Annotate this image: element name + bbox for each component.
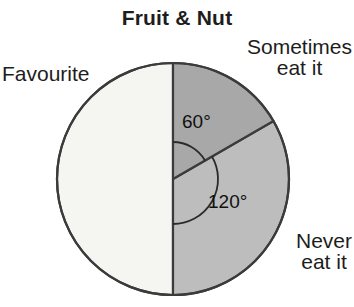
pie-label-never-eat-it: Never eat it: [296, 230, 352, 272]
pie-label-never-line1: Never: [296, 229, 352, 252]
pie-slice-favourite[interactable]: [57, 63, 173, 295]
pie-label-sometimes-line2: eat it: [247, 57, 352, 78]
angle-label-60: 60°: [182, 112, 211, 131]
pie-label-favourite-text: Favourite: [2, 62, 90, 85]
pie-chart-figure: Fruit & Nut 60° 120° Favourite Sometimes…: [0, 0, 354, 307]
pie-label-sometimes-eat-it: Sometimes eat it: [247, 36, 352, 78]
pie-label-never-line2: eat it: [296, 251, 352, 272]
pie-label-favourite: Favourite: [2, 63, 90, 84]
pie-label-sometimes-line1: Sometimes: [247, 35, 352, 58]
angle-label-120: 120°: [208, 192, 247, 211]
